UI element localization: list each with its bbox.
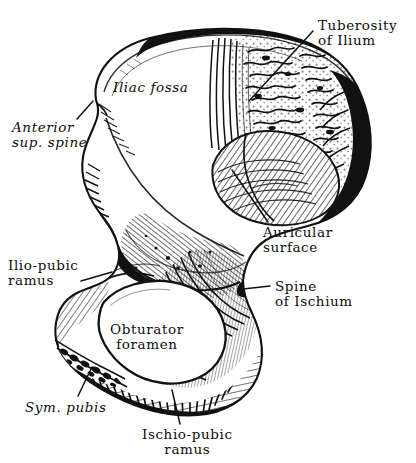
label-line: Ischio-pubic — [142, 427, 233, 442]
label-line: Ilio-pubic — [8, 258, 79, 273]
leader-line-spine-of-ischium — [243, 286, 270, 289]
label-line: Anterior — [12, 120, 87, 135]
label-line: Tuberosity — [318, 18, 397, 33]
label-line: Sym. pubis — [25, 400, 106, 415]
leader-line-anterior-sup-spine — [77, 101, 93, 119]
label-obturator-foramen: Obturatorforamen — [110, 322, 184, 352]
label-ischio-pubic-ramus: Ischio-pubicramus — [142, 427, 233, 457]
label-line: Spine — [275, 279, 353, 294]
label-line: ramus — [8, 273, 79, 288]
anatomical-figure-plate: Tuberosityof IliumAnteriorsup. spineIlia… — [0, 0, 416, 463]
label-line: of Ischium — [275, 294, 353, 309]
label-line: Obturator — [110, 322, 184, 337]
label-sym-pubis: Sym. pubis — [25, 400, 106, 415]
label-line: Iliac fossa — [113, 80, 189, 95]
label-iliac-fossa: Iliac fossa — [113, 80, 189, 95]
label-anterior-sup-spine: Anteriorsup. spine — [12, 120, 87, 150]
label-tuberosity-of-ilium: Tuberosityof Ilium — [318, 18, 397, 48]
hip-bone-illustration — [0, 0, 416, 463]
label-line: sup. spine — [12, 135, 87, 150]
label-line: of Ilium — [318, 33, 397, 48]
label-spine-of-ischium: Spineof Ischium — [275, 279, 353, 309]
label-line: ramus — [142, 442, 233, 457]
label-auricular-surface: Auricularsurface — [263, 225, 333, 255]
label-line: Auricular — [263, 225, 333, 240]
label-ilio-pubic-ramus: Ilio-pubicramus — [8, 258, 79, 288]
label-line: surface — [263, 240, 333, 255]
label-line: foramen — [110, 337, 184, 352]
